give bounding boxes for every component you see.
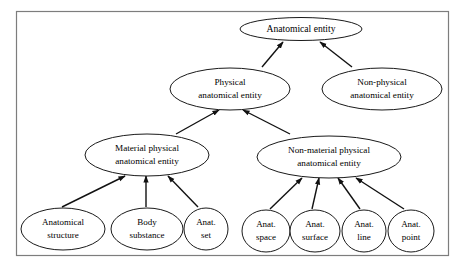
node-non-material-physical-anatomical-entity-shape[interactable] bbox=[257, 136, 401, 178]
node-anat-set-label-line2: set bbox=[201, 230, 211, 240]
edge-surface-to-nonmaterial bbox=[312, 178, 319, 209]
node-material-physical-anatomical-entity-label-line1: Material physical bbox=[115, 143, 179, 153]
node-non-physical-anatomical-entity-label-line1: Non-physical bbox=[357, 77, 407, 87]
node-physical-anatomical-entity-shape[interactable] bbox=[170, 68, 290, 110]
node-physical-anatomical-entity-label-line1: Physical bbox=[214, 77, 246, 87]
diagram-canvas: Anatomical entity Physical anatomical en… bbox=[0, 0, 467, 275]
edge-structure-to-material bbox=[62, 176, 125, 207]
node-anat-set-shape[interactable] bbox=[184, 208, 228, 250]
edge-line-to-nonmaterial bbox=[338, 178, 360, 209]
node-anatomical-structure[interactable]: Anatomical structure bbox=[21, 208, 105, 250]
node-physical-anatomical-entity[interactable]: Physical anatomical entity bbox=[170, 68, 290, 110]
node-anat-point-shape[interactable] bbox=[388, 210, 434, 252]
node-non-physical-anatomical-entity-label-line2: anatomical entity bbox=[350, 90, 414, 100]
node-anat-line-label-line1: Anat. bbox=[354, 219, 374, 229]
node-anat-space[interactable]: Anat. space bbox=[242, 210, 290, 252]
edge-material-to-physical bbox=[176, 110, 219, 134]
node-anatomical-entity[interactable]: Anatomical entity bbox=[240, 18, 362, 41]
node-non-material-physical-anatomical-entity[interactable]: Non-material physical anatomical entity bbox=[257, 136, 401, 178]
node-anat-surface[interactable]: Anat. surface bbox=[290, 210, 340, 252]
edge-group bbox=[62, 42, 404, 209]
node-material-physical-anatomical-entity-shape[interactable] bbox=[85, 134, 209, 176]
edge-set-to-material bbox=[168, 176, 198, 207]
edge-point-to-nonmaterial bbox=[356, 178, 404, 209]
node-anat-space-label-line2: space bbox=[256, 232, 276, 242]
node-non-physical-anatomical-entity[interactable]: Non-physical anatomical entity bbox=[322, 68, 442, 110]
node-anat-point-label-line2: point bbox=[402, 232, 421, 242]
edge-physical-to-anatomical-entity bbox=[262, 42, 283, 67]
node-anat-line-label-line2: line bbox=[357, 232, 371, 242]
node-material-physical-anatomical-entity-label-line2: anatomical entity bbox=[115, 156, 179, 166]
node-anat-surface-label-line1: Anat. bbox=[305, 219, 325, 229]
node-anat-point[interactable]: Anat. point bbox=[388, 210, 434, 252]
node-physical-anatomical-entity-label-line2: anatomical entity bbox=[198, 90, 262, 100]
edge-nonmaterial-to-physical bbox=[243, 110, 290, 134]
node-body-substance-label-line1: Body bbox=[137, 217, 157, 227]
node-anat-set-label-line1: Anat. bbox=[196, 217, 216, 227]
node-anatomical-structure-label-line2: structure bbox=[47, 230, 79, 240]
node-non-material-physical-anatomical-entity-label-line2: anatomical entity bbox=[297, 158, 361, 168]
node-anat-space-label-line1: Anat. bbox=[256, 219, 276, 229]
node-non-material-physical-anatomical-entity-label-line1: Non-material physical bbox=[288, 145, 370, 155]
node-body-substance-shape[interactable] bbox=[111, 208, 183, 250]
node-anatomical-entity-label: Anatomical entity bbox=[266, 23, 335, 34]
node-non-physical-anatomical-entity-shape[interactable] bbox=[322, 68, 442, 110]
node-anat-surface-label-line2: surface bbox=[302, 232, 328, 242]
node-material-physical-anatomical-entity[interactable]: Material physical anatomical entity bbox=[85, 134, 209, 176]
node-anatomical-structure-label-line1: Anatomical bbox=[42, 217, 84, 227]
node-anat-point-label-line1: Anat. bbox=[401, 219, 421, 229]
node-body-substance-label-line2: substance bbox=[130, 230, 165, 240]
node-body-substance[interactable]: Body substance bbox=[111, 208, 183, 250]
node-anatomical-structure-shape[interactable] bbox=[21, 208, 105, 250]
node-anat-surface-shape[interactable] bbox=[290, 210, 340, 252]
anatomical-entity-taxonomy-diagram: Anatomical entity Physical anatomical en… bbox=[0, 0, 467, 275]
node-anat-space-shape[interactable] bbox=[242, 210, 290, 252]
node-anat-line-shape[interactable] bbox=[342, 210, 386, 252]
edge-space-to-nonmaterial bbox=[270, 178, 302, 209]
node-anat-set[interactable]: Anat. set bbox=[184, 208, 228, 250]
edge-nonphysical-to-anatomical-entity bbox=[320, 42, 352, 67]
node-anat-line[interactable]: Anat. line bbox=[342, 210, 386, 252]
